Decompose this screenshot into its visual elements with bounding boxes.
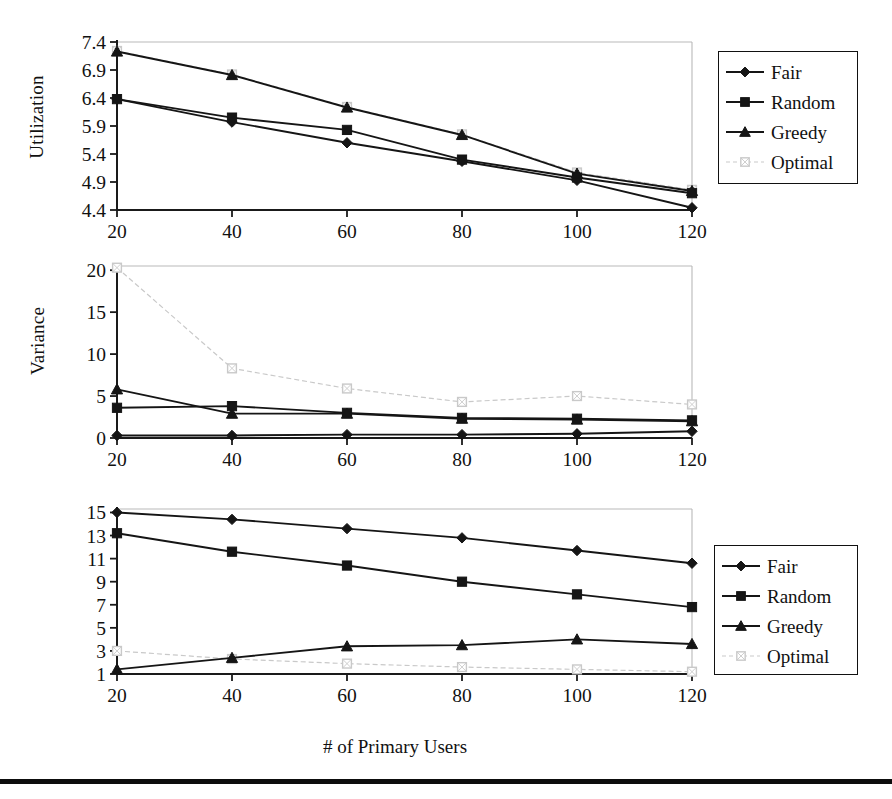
- data-point-marker: [342, 561, 351, 570]
- legend-label: Fair: [771, 63, 802, 82]
- data-point-marker: [111, 384, 122, 394]
- y-tick-label: 15: [87, 502, 107, 523]
- legend-marker-glyph: [740, 67, 750, 77]
- series-line: [117, 533, 692, 607]
- axis-lines: [117, 507, 692, 674]
- legend-label: Random: [771, 93, 835, 112]
- y-tick-label: 7.4: [82, 32, 107, 53]
- y-axis-ticks: 4.44.95.45.96.46.97.4: [82, 32, 117, 221]
- x-tick-label: 20: [107, 449, 127, 470]
- legend-item-greedy[interactable]: Greedy: [725, 117, 849, 147]
- legend-label: Optimal: [771, 153, 833, 172]
- series-line: [117, 99, 692, 208]
- y-tick-label: 0: [96, 428, 106, 449]
- data-point-marker: [112, 430, 122, 440]
- y-tick-label: 4.4: [82, 200, 107, 221]
- plot-area-variance: 0510152020406080100120: [0, 252, 892, 474]
- data-point-marker: [688, 400, 697, 409]
- x-axis-ticks: 20406080100120: [107, 210, 706, 242]
- series-greedy: [111, 46, 697, 196]
- data-point-marker: [342, 138, 352, 148]
- y-tick-label: 11: [87, 549, 106, 570]
- x-axis-ticks: 20406080100120: [107, 438, 706, 470]
- data-point-marker: [688, 667, 697, 676]
- data-point-marker: [112, 95, 121, 104]
- x-tick-label: 80: [452, 685, 472, 706]
- y-tick-label: 5.9: [82, 116, 106, 137]
- data-point-marker: [457, 577, 466, 586]
- y-tick-label: 6.9: [82, 60, 106, 81]
- y-tick-label: 4.9: [82, 172, 106, 193]
- x-tick-label: 100: [562, 685, 591, 706]
- data-point-marker: [687, 558, 697, 568]
- series-greedy: [111, 384, 697, 426]
- x-tick-label: 100: [562, 221, 591, 242]
- x-tick-label: 40: [222, 221, 242, 242]
- data-point-marker: [342, 523, 352, 533]
- series-line: [117, 431, 692, 435]
- x-tick-label: 100: [562, 449, 591, 470]
- x-tick-label: 120: [677, 449, 706, 470]
- x-tick-label: 60: [337, 449, 357, 470]
- series-random: [112, 95, 696, 198]
- legend-utilization: FairRandomGreedyOptimal: [718, 51, 858, 184]
- data-point-marker: [573, 392, 582, 401]
- x-tick-label: 80: [452, 221, 472, 242]
- x-tick-label: 60: [337, 685, 357, 706]
- legend-label: Greedy: [771, 123, 827, 142]
- bottom-divider-rule: [0, 779, 892, 784]
- series-line: [117, 512, 692, 563]
- data-point-marker: [112, 529, 121, 538]
- data-point-marker: [687, 203, 697, 213]
- y-tick-label: 20: [87, 260, 107, 281]
- x-tick-label: 120: [677, 685, 706, 706]
- series-avgcolor: [112, 529, 696, 612]
- series-line: [117, 268, 692, 405]
- y-tick-label: 15: [87, 302, 107, 323]
- data-point-marker: [687, 602, 696, 611]
- axis-lines: [117, 264, 692, 438]
- y-tick-label: 7: [96, 595, 106, 616]
- chart-panel-utilization: Utilization 4.44.95.45.96.46.97.42040608…: [0, 14, 892, 246]
- figure-root: Utilization 4.44.95.45.96.46.97.42040608…: [0, 0, 892, 799]
- data-point-marker: [227, 514, 237, 524]
- x-tick-label: 80: [452, 449, 472, 470]
- y-tick-label: 9: [96, 572, 106, 593]
- data-point-marker: [573, 665, 582, 674]
- data-point-marker: [112, 403, 121, 412]
- data-point-marker: [572, 545, 582, 555]
- plot-area-color: 1357911131520406080100120: [0, 492, 892, 707]
- legend-marker-glyph: [741, 98, 750, 107]
- legend-item-optimal[interactable]: Optimal: [725, 147, 849, 177]
- series-non-opp: [112, 507, 697, 568]
- y-tick-label: 5: [96, 386, 106, 407]
- data-point-marker: [227, 113, 236, 122]
- legend-item-fair[interactable]: Fair: [725, 57, 849, 87]
- y-tick-label: 3: [96, 641, 106, 662]
- y-axis-ticks: 05101520: [87, 260, 118, 449]
- x-tick-label: 120: [677, 221, 706, 242]
- axis-lines: [117, 40, 692, 210]
- data-point-marker: [342, 125, 351, 134]
- legend-item-random[interactable]: Random: [725, 87, 849, 117]
- plot-frame: [117, 42, 692, 210]
- legend-marker-opensquare-icon: [725, 152, 765, 172]
- legend-marker-triangle-icon: [725, 122, 765, 142]
- series-optimal: [113, 263, 697, 409]
- chart-panel-color: 1357911131520406080100120 non-oppavgcolo…: [0, 492, 892, 707]
- series-line: [117, 389, 692, 421]
- data-point-marker: [227, 547, 236, 556]
- y-tick-label: 10: [87, 344, 107, 365]
- legend-marker-diamond-icon: [725, 62, 765, 82]
- x-axis-title: # of Primary Users: [0, 736, 790, 758]
- data-point-marker: [227, 430, 237, 440]
- data-point-marker: [343, 659, 352, 668]
- series-line: [117, 52, 692, 191]
- legend-marker-glyph: [741, 158, 749, 166]
- x-tick-label: 20: [107, 685, 127, 706]
- series-line: [117, 99, 692, 193]
- data-point-marker: [687, 426, 697, 436]
- data-point-marker: [457, 533, 467, 543]
- x-tick-label: 20: [107, 221, 127, 242]
- plot-frame: [117, 266, 692, 438]
